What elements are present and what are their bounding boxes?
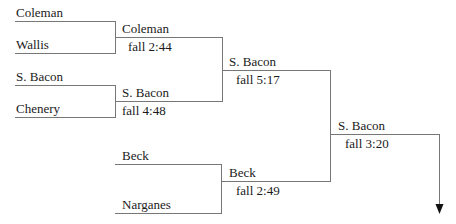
competitor-name: Chenery [16,102,60,116]
competitor-name: Wallis [16,38,49,52]
match-result: fall 4:48 [122,104,166,118]
final-result: fall 3:20 [345,137,389,151]
match-winner: S. Bacon [122,86,169,100]
final-winner: S. Bacon [338,119,385,133]
competitor-name: S. Bacon [16,70,63,84]
match-winner: S. Bacon [229,55,276,69]
match-result: fall 5:17 [236,73,280,87]
match-result: fall 2:49 [236,184,280,198]
match-winner: Beck [229,166,256,180]
competitor-name: Beck [122,149,149,163]
match-winner: Coleman [122,22,169,36]
competitor-name: Coleman [16,6,63,20]
bracket-lines [0,0,456,224]
arrow-down-icon [436,204,444,214]
match-result: fall 2:44 [128,40,172,54]
competitor-name: Narganes [122,198,171,212]
